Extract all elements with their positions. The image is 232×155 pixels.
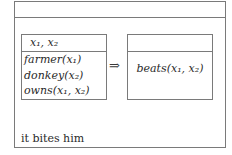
consequent-divider <box>128 51 212 52</box>
condition-owns: owns(x₁, x₂) <box>24 83 90 99</box>
implication-arrow-icon: ⇒ <box>109 58 120 74</box>
condition-beats: beats(x₁, x₂) <box>128 62 212 75</box>
antecedent-conditions: farmer(x₁) donkey(x₂) owns(x₁, x₂) <box>24 52 90 99</box>
pending-sentence: it bites him <box>21 132 84 145</box>
antecedent-referents: x₁, x₂ <box>30 35 58 51</box>
outer-drs-divider <box>15 17 225 18</box>
consequent-drs-box: beats(x₁, x₂) <box>127 34 213 100</box>
condition-farmer: farmer(x₁) <box>24 52 90 68</box>
antecedent-drs-box: x₁, x₂ farmer(x₁) donkey(x₂) owns(x₁, x₂… <box>21 34 107 100</box>
condition-donkey: donkey(x₂) <box>24 68 90 84</box>
